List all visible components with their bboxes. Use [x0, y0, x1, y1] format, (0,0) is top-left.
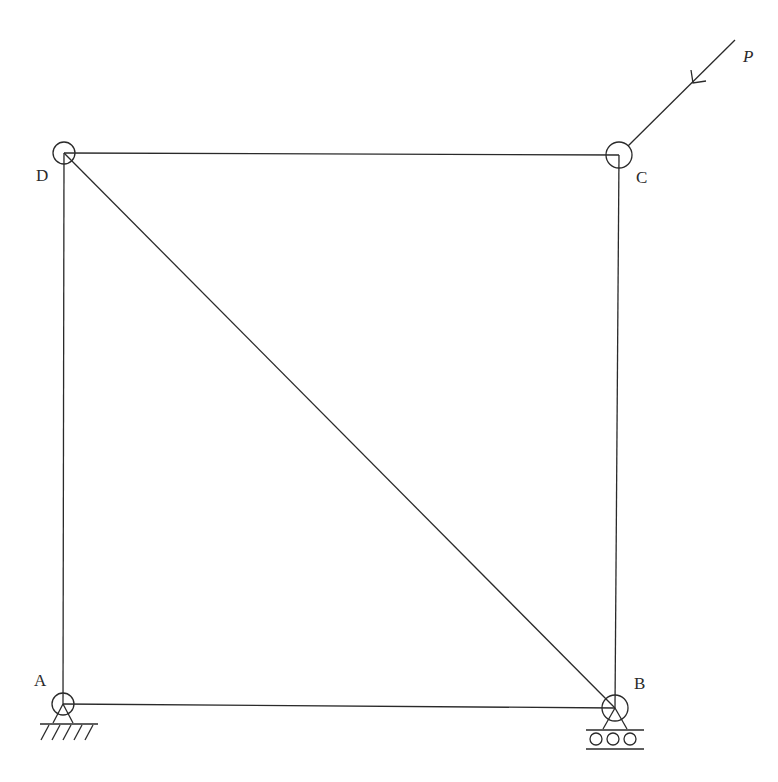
load-p-arrow [628, 40, 735, 146]
member-bc [615, 155, 619, 708]
member-db-diagonal [64, 153, 615, 708]
node-label-d: D [36, 166, 48, 185]
load-line [628, 40, 735, 146]
node-label-b: B [634, 674, 645, 693]
pin-support-icon [40, 704, 98, 740]
node-label-a: A [34, 671, 47, 690]
truss-diagram: A B C D P [0, 0, 778, 782]
member-cd [64, 153, 619, 155]
node-label-c: C [636, 168, 647, 187]
truss-members [63, 153, 619, 708]
member-ab [63, 704, 615, 708]
roller-support-icon [586, 708, 644, 749]
member-da [63, 153, 64, 704]
load-label-p: P [742, 47, 753, 66]
